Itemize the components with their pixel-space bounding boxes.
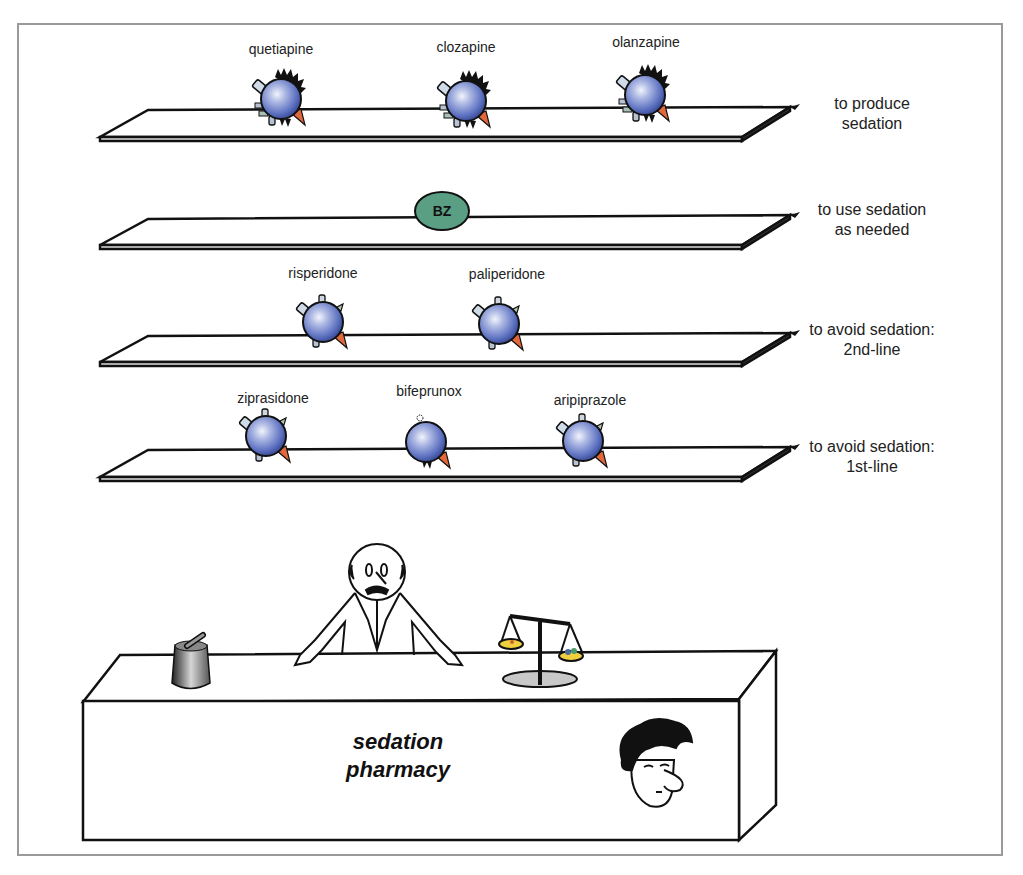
shelf-label-line: sedation: [834, 114, 910, 134]
shelf-label-line: to use sedation: [818, 200, 927, 220]
pharmacist-figure: [295, 544, 462, 665]
shelf-pointers: [790, 104, 800, 450]
benzodiazepine-pill-icon: BZ: [414, 191, 470, 231]
bz-label: BZ: [433, 203, 452, 219]
shelf-label-avoid-2nd-line: to avoid sedation: 2nd-line: [809, 320, 934, 360]
shelf-label-line: to produce: [834, 94, 910, 114]
shelf-label-line: to avoid sedation:: [809, 320, 934, 340]
drug-label-ziprasidone: ziprasidone: [237, 390, 309, 406]
drug-label-aripiprazole: aripiprazole: [554, 392, 626, 408]
drug-label-bifeprunox: bifeprunox: [396, 383, 461, 399]
shelf-label-line: to avoid sedation:: [809, 437, 934, 457]
shelf-label-produce-sedation: to produce sedation: [834, 94, 910, 134]
shelf-label-line: 1st-line: [809, 457, 934, 477]
shelf-label-use-sedation: to use sedation as needed: [818, 200, 927, 240]
drug-label-risperidone: risperidone: [288, 265, 357, 281]
counter-label-line: sedation: [346, 728, 450, 756]
shelf-label-avoid-1st-line: to avoid sedation: 1st-line: [809, 437, 934, 477]
shelf-produce-sedation: [100, 107, 790, 141]
mortar-pestle-icon: [172, 635, 210, 689]
drug-label-quetiapine: quetiapine: [249, 41, 314, 57]
drug-label-clozapine: clozapine: [436, 39, 495, 55]
counter-label: sedation pharmacy: [346, 728, 450, 784]
counter-label-line: pharmacy: [346, 756, 450, 784]
drug-label-paliperidone: paliperidone: [469, 266, 545, 282]
shelf-avoid-sedation-2nd: [100, 333, 790, 366]
shelf-label-line: 2nd-line: [809, 340, 934, 360]
shelf-label-line: as needed: [818, 220, 927, 240]
drug-label-olanzapine: olanzapine: [612, 34, 680, 50]
